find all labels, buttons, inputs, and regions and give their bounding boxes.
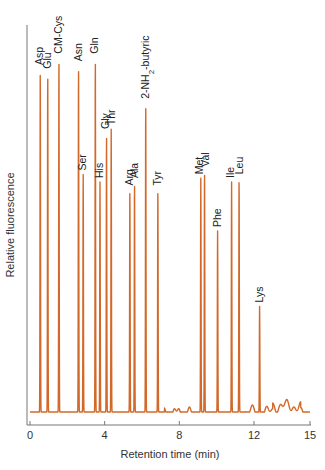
peak-label-lys: Lys [253, 286, 265, 302]
y-axis-title: Relative fluorescence [4, 172, 16, 277]
peak-label-2-nh2-butyric: 2-NH2-butyric [139, 35, 156, 98]
peak-label-leu: Leu [233, 157, 245, 175]
x-tick-label: 4 [102, 429, 108, 441]
peak-label-thr: Thr [105, 109, 117, 125]
peak-label-phe: Phe [211, 208, 223, 227]
x-tick-label: 12 [248, 429, 260, 441]
chromatogram-trace [30, 64, 310, 412]
peak-label-cm-cys: CM-Cys [52, 16, 64, 54]
peak-label-tyr: Tyr [151, 170, 163, 185]
axes: 0481215 Retention time (min) Relative fl… [4, 25, 316, 460]
peak-label-asn: Asn [72, 43, 84, 61]
chromatogram-chart: 0481215 Retention time (min) Relative fl… [0, 0, 325, 470]
x-tick-label: 0 [27, 429, 33, 441]
x-axis-title: Retention time (min) [120, 448, 219, 460]
peak-label-ala: Ala [128, 163, 140, 178]
peak-label-ser: Ser [76, 154, 88, 171]
peak-label-glu: Glu [41, 52, 53, 69]
peak-label-val: Val [199, 152, 211, 166]
x-tick-label: 8 [176, 429, 182, 441]
peak-label-his: His [93, 163, 105, 178]
x-tick-label: 15 [304, 429, 316, 441]
peak-label-gln: Gln [88, 37, 100, 54]
x-ticks: 0481215 [27, 421, 316, 441]
peak-labels: AspGluCM-CysAsnGlnSerHisGlyThrArgAla2-NH… [33, 16, 264, 303]
